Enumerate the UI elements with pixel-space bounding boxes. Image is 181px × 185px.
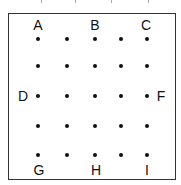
grid-dot [65, 124, 69, 128]
tick-mark [75, 0, 76, 3]
label-g: G [34, 163, 45, 177]
grid-dot [65, 153, 69, 157]
grid-dot [65, 64, 69, 68]
grid-dot [93, 153, 97, 157]
tick-mark [148, 0, 149, 3]
grid-dot [65, 37, 69, 41]
grid-dot [93, 124, 97, 128]
grid-dot [145, 153, 149, 157]
grid-dot [145, 64, 149, 68]
top-tick-marks [0, 0, 181, 6]
grid-dot [93, 37, 97, 41]
grid-dot [36, 37, 40, 41]
grid-dot [145, 37, 149, 41]
grid-dot [145, 124, 149, 128]
grid-dot [36, 64, 40, 68]
diagram-frame [8, 13, 176, 180]
grid-dot [93, 94, 97, 98]
label-i: I [145, 163, 149, 177]
tick-mark [111, 0, 112, 3]
grid-dot [93, 64, 97, 68]
grid-dot [119, 124, 123, 128]
grid-dot [119, 64, 123, 68]
label-f: F [157, 89, 166, 103]
grid-dot [119, 94, 123, 98]
grid-dot [119, 37, 123, 41]
grid-dot [36, 153, 40, 157]
label-a: A [33, 18, 42, 32]
grid-dot [36, 124, 40, 128]
grid-dot [145, 94, 149, 98]
label-h: H [91, 163, 101, 177]
grid-dot [119, 153, 123, 157]
label-b: B [90, 18, 99, 32]
label-d: D [18, 89, 28, 103]
grid-dot [65, 94, 69, 98]
label-c: C [141, 18, 151, 32]
grid-dot [36, 94, 40, 98]
tick-mark [41, 0, 42, 3]
